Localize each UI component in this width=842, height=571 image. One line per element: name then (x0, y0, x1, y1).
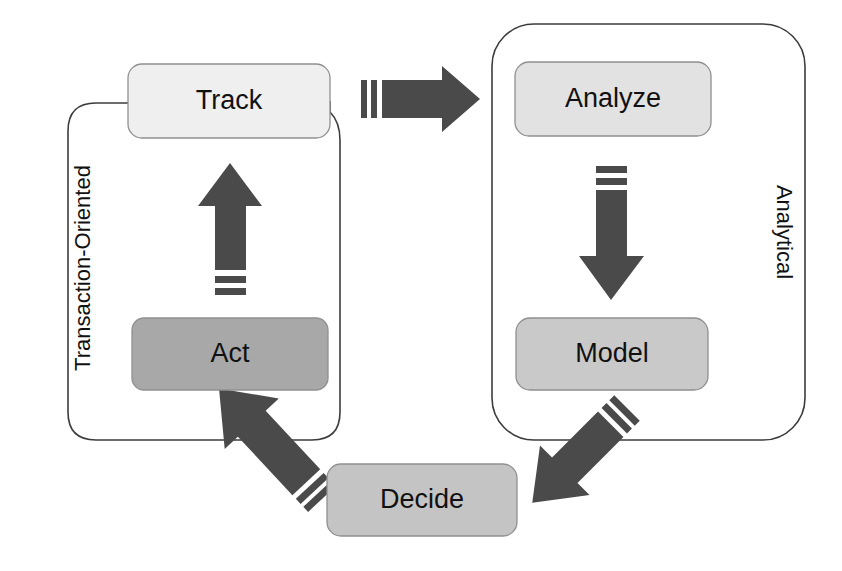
group-label-analytical-text: Analytical (772, 185, 797, 279)
arrow-analyze-to-model-tail-bar-2 (596, 178, 627, 185)
group-label-transaction-oriented-text: Transaction-Oriented (70, 165, 95, 371)
group-label-transaction-oriented: Transaction-Oriented (70, 165, 95, 371)
node-decide-label: Decide (380, 484, 464, 514)
arrow-act-to-track-tail-bar-1 (215, 288, 246, 295)
node-track[interactable]: Track (128, 64, 330, 138)
arrow-analyze-to-model-tail-bar-1 (596, 166, 627, 173)
arrow-track-to-analyze (361, 66, 480, 132)
node-analyze[interactable]: Analyze (515, 62, 711, 136)
arrow-act-to-track-body (198, 163, 262, 270)
node-model-label: Model (575, 338, 649, 368)
arrow-track-to-analyze-tail-bar-1 (361, 80, 367, 118)
arrow-model-to-decide (507, 383, 651, 527)
arrow-act-to-track (198, 163, 262, 295)
arrow-track-to-analyze-tail-bar-2 (371, 80, 377, 118)
node-analyze-label: Analyze (565, 83, 661, 113)
diagram-root: Transaction-Oriented Analytical (0, 0, 842, 571)
process-cycle-diagram: Transaction-Oriented Analytical (0, 0, 842, 571)
arrow-act-to-track-tail-bar-2 (215, 276, 246, 283)
node-act[interactable]: Act (132, 318, 328, 390)
group-label-analytical: Analytical (772, 185, 797, 279)
arrow-analyze-to-model-body (579, 190, 644, 300)
node-model[interactable]: Model (516, 318, 708, 390)
node-act-label: Act (210, 338, 250, 368)
arrow-track-to-analyze-body (382, 66, 480, 132)
node-decide[interactable]: Decide (327, 464, 517, 536)
arrow-analyze-to-model (579, 166, 644, 300)
node-track-label: Track (196, 85, 263, 115)
